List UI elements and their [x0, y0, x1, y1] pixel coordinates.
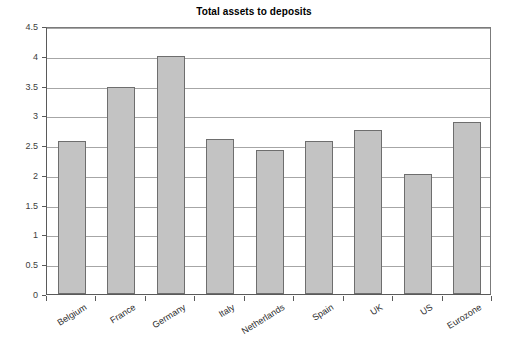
x-axis-category-label: Italy [217, 302, 236, 319]
gridline [47, 58, 490, 59]
bar [404, 174, 432, 294]
x-axis-category-label: Eurozone [445, 302, 483, 331]
x-axis-category-label: Spain [310, 302, 335, 323]
y-axis-tick-label: 1 [0, 230, 38, 240]
gridline [47, 28, 490, 29]
y-axis-tick-label: 0.5 [0, 260, 38, 270]
x-axis-category-label: Germany [151, 302, 188, 330]
x-axis-tick-mark [343, 296, 344, 301]
x-axis-tick-mark [392, 296, 393, 301]
y-axis-tick-label: 4.5 [0, 22, 38, 32]
bar [354, 130, 382, 294]
y-axis-tick-label: 3 [0, 111, 38, 121]
y-axis-tick-label: 4 [0, 52, 38, 62]
bar [58, 141, 86, 294]
x-axis-tick-mark [145, 296, 146, 301]
x-axis-tick-mark [46, 296, 47, 301]
y-axis-tick-label: 0 [0, 290, 38, 300]
x-axis-tick-mark [491, 296, 492, 301]
chart-title: Total assets to deposits [0, 6, 508, 17]
y-axis-tick-label: 3.5 [0, 82, 38, 92]
bar [157, 56, 185, 294]
x-axis-tick-mark [194, 296, 195, 301]
x-axis-category-label: Netherlands [240, 302, 286, 336]
x-axis-category-label: France [108, 302, 137, 325]
x-axis-tick-mark [95, 296, 96, 301]
y-axis-tick-label: 1.5 [0, 201, 38, 211]
x-axis-tick-mark [244, 296, 245, 301]
y-axis-tick-label: 2.5 [0, 141, 38, 151]
bar [453, 122, 481, 294]
x-axis-category-label: Belgium [55, 302, 88, 328]
x-axis-tick-mark [293, 296, 294, 301]
chart-container: Total assets to deposits 00.511.522.533.… [0, 0, 508, 356]
x-axis-category-label: US [418, 302, 434, 317]
bar [305, 141, 333, 294]
bar [107, 87, 135, 294]
x-axis-category-label: UK [368, 302, 384, 317]
bar [256, 150, 284, 294]
bar [206, 139, 234, 294]
x-axis-tick-mark [442, 296, 443, 301]
y-axis-tick-label: 2 [0, 171, 38, 181]
plot-area [46, 27, 491, 295]
